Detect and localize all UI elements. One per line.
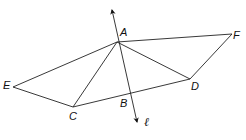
label-C: C [69,110,77,122]
diagram-canvas: A F D E C B ℓ [0,0,246,140]
geometry-diagram: A F D E C B ℓ [0,0,246,140]
segment-FD [190,34,232,79]
segment-EC [13,87,73,107]
label-A: A [119,26,127,38]
segment-AD [117,42,190,79]
label-line-l: ℓ [144,115,149,129]
segment-CD [73,79,190,107]
label-B: B [120,97,127,109]
label-F: F [233,29,241,41]
label-E: E [3,79,11,91]
label-D: D [191,80,199,92]
segment-AF [117,34,232,42]
